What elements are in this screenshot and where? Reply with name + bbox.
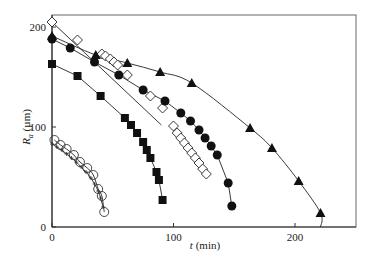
open-diamond-point <box>73 35 83 45</box>
filled-circle-point <box>176 109 185 118</box>
filled-triangle-point <box>316 208 326 217</box>
filled-circle-point <box>195 126 204 135</box>
filled-circle-point <box>90 58 99 67</box>
filled-triangle-point <box>245 123 255 132</box>
filled-circle-point <box>139 86 148 95</box>
fit-lines <box>52 22 322 227</box>
cross-fit-line <box>52 144 103 207</box>
filled-circle-point <box>224 179 233 188</box>
filled-circle-point <box>227 202 236 211</box>
chart: 01002000100200 t (min) Ra (µm) <box>0 0 370 264</box>
open-diamond-point <box>145 91 155 101</box>
filled-circle-point <box>186 117 195 126</box>
axis-ticks: 01002000100200 <box>30 21 304 243</box>
filled-circle-point <box>213 151 222 160</box>
filled-triangle-point <box>155 67 165 76</box>
filled-circle-point <box>207 142 216 151</box>
x-axis-label: t (min) <box>190 239 221 252</box>
filled-circle-fit-line <box>52 39 232 206</box>
filled-square-point <box>159 196 167 204</box>
open-diamond-fit-line <box>52 22 161 125</box>
filled-square-point <box>48 60 56 68</box>
filled-triangle-point <box>187 78 197 87</box>
x-tick-label: 0 <box>49 231 55 243</box>
filled-square-point <box>97 92 105 100</box>
x-tick-label: 200 <box>287 231 304 243</box>
filled-square-point <box>121 114 129 122</box>
y-tick-label: 200 <box>30 21 47 33</box>
filled-circle-point <box>66 44 75 53</box>
filled-circle-point <box>201 134 210 143</box>
filled-square-point <box>155 176 163 184</box>
filled-triangle-point <box>294 176 304 185</box>
filled-circle-point <box>114 71 123 80</box>
filled-square-point <box>133 129 141 137</box>
x-tick-label: 100 <box>165 231 182 243</box>
filled-square-point <box>127 121 135 129</box>
filled-square-point <box>152 168 160 176</box>
filled-square-point <box>74 72 82 80</box>
filled-square-point <box>143 146 151 154</box>
filled-square-point <box>139 138 147 146</box>
y-tick-label: 0 <box>41 221 47 233</box>
filled-square-point <box>146 154 154 162</box>
filled-circle-point <box>160 97 169 106</box>
filled-circle-point <box>48 35 57 44</box>
y-tick-label: 100 <box>30 121 47 133</box>
filled-square-fit-line <box>52 64 163 200</box>
